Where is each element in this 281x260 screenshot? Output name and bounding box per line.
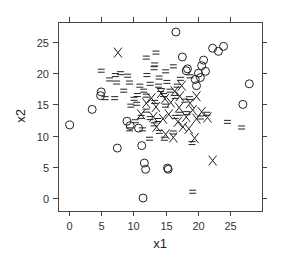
axis-ticks xyxy=(53,17,267,216)
equals-marker xyxy=(98,69,105,72)
y-tick-label: 25 xyxy=(37,37,49,49)
equals-marker xyxy=(102,97,109,100)
x-tick-label: 5 xyxy=(98,220,104,232)
circle-marker xyxy=(239,100,247,108)
equals-marker xyxy=(143,56,150,59)
equals-marker xyxy=(155,84,162,87)
equals-marker xyxy=(189,190,196,193)
equals-marker xyxy=(140,89,147,92)
x-tick-label: 25 xyxy=(224,220,236,232)
cross-marker xyxy=(171,86,179,96)
data-points xyxy=(66,28,254,202)
circle-marker xyxy=(172,28,180,36)
equals-marker xyxy=(152,51,159,54)
x-tick-label: 0 xyxy=(66,220,72,232)
equals-marker xyxy=(176,112,183,115)
circle-marker xyxy=(200,56,208,64)
circle-marker xyxy=(66,121,74,129)
equals-marker xyxy=(224,120,231,123)
cross-marker xyxy=(175,103,183,113)
plot-frame xyxy=(59,23,263,212)
equals-marker xyxy=(136,84,143,87)
x-tick-label: 20 xyxy=(192,220,204,232)
y-tick-label: 0 xyxy=(43,193,49,205)
circle-marker xyxy=(220,42,228,50)
x-axis-title: x1 xyxy=(153,236,167,251)
equals-marker xyxy=(126,81,133,84)
cross-marker xyxy=(193,91,201,101)
y-axis-tick-labels: 0510152025 xyxy=(37,37,49,205)
y-tick-label: 20 xyxy=(37,68,49,80)
circle-marker xyxy=(245,80,253,88)
cross-marker xyxy=(178,81,186,91)
x-axis-tick-labels: 0510152025 xyxy=(66,220,236,232)
equals-marker xyxy=(106,78,113,81)
circle-marker xyxy=(198,62,206,70)
cross-marker xyxy=(114,48,122,58)
cross-marker xyxy=(162,129,170,139)
cross-marker xyxy=(185,124,193,134)
equals-marker xyxy=(143,74,150,77)
equals-marker xyxy=(111,97,118,100)
circle-marker xyxy=(88,105,96,113)
circle-marker xyxy=(178,53,186,61)
cross-marker xyxy=(203,113,211,123)
equals-marker xyxy=(167,89,174,92)
cross-marker xyxy=(209,156,217,166)
cross-marker xyxy=(147,93,155,103)
cross-marker xyxy=(176,91,184,101)
equals-marker xyxy=(177,77,184,80)
circle-marker xyxy=(202,67,210,75)
equals-marker xyxy=(134,94,141,97)
equals-marker xyxy=(113,81,120,84)
equals-marker xyxy=(132,120,139,123)
equals-marker xyxy=(124,74,131,77)
equals-marker xyxy=(163,80,170,83)
equals-marker xyxy=(151,67,158,70)
equals-marker xyxy=(146,137,153,140)
equals-marker xyxy=(147,82,154,85)
x-tick-label: 15 xyxy=(160,220,172,232)
cross-marker xyxy=(142,98,150,108)
equals-marker xyxy=(170,65,177,68)
equals-marker xyxy=(120,89,127,92)
y-tick-label: 15 xyxy=(37,99,49,111)
equals-marker xyxy=(238,126,245,129)
cross-marker xyxy=(179,122,187,132)
equals-marker xyxy=(170,131,177,134)
y-tick-label: 5 xyxy=(43,162,49,174)
cross-marker xyxy=(182,112,190,122)
circle-marker xyxy=(113,144,121,152)
x-tick-label: 10 xyxy=(127,220,139,232)
circle-marker xyxy=(138,142,146,150)
equals-marker xyxy=(151,63,158,66)
circle-marker xyxy=(139,194,147,202)
y-axis-title: x2 xyxy=(13,109,28,123)
equals-marker xyxy=(156,76,163,79)
equals-marker xyxy=(162,70,169,73)
equals-marker xyxy=(131,97,138,100)
scatter-plot: 0510152025 0510152025 x1 x2 xyxy=(0,0,281,260)
y-tick-label: 10 xyxy=(37,131,49,143)
equals-marker xyxy=(174,84,181,87)
